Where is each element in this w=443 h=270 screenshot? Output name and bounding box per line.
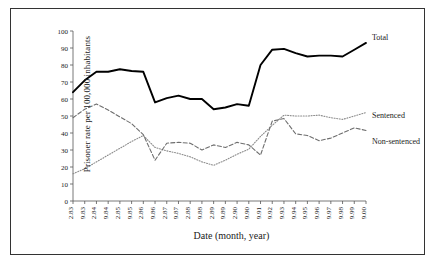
x-tick-label: 9.85 xyxy=(126,207,134,220)
x-tick-label: 2.89 xyxy=(208,207,216,220)
x-tick-label: 9.94 xyxy=(290,207,298,220)
chart-figure: 0102030405060708090100 2.839.832.849.842… xyxy=(10,8,425,255)
x-tick-label: 2.83 xyxy=(67,207,75,220)
x-tick-label: 2.88 xyxy=(184,207,192,220)
y-axis-label-holder: Prisoner rate per 100,000 inhabitants xyxy=(67,9,68,199)
legend-label-sentenced: Sentenced xyxy=(372,111,405,120)
series-line-total xyxy=(73,43,366,109)
legend-label-total: Total xyxy=(372,33,389,42)
series-line-sentenced xyxy=(73,113,366,174)
series-line-non-sentenced xyxy=(73,104,366,160)
x-tick-label: 9.92 xyxy=(266,207,274,220)
x-tick-label: 9.90 xyxy=(243,207,251,220)
x-axis: 2.839.832.849.842.859.852.869.862.879.87… xyxy=(67,201,368,219)
x-tick-label: 9.83 xyxy=(79,207,87,220)
x-tick-label: 9.93 xyxy=(278,207,286,220)
x-tick-label: 2.86 xyxy=(137,207,145,220)
x-tick-label: 9.95 xyxy=(301,207,309,220)
line-chart: 0102030405060708090100 2.839.832.849.842… xyxy=(11,9,426,256)
legend-label-non-sentenced: Non-sentenced xyxy=(372,137,420,146)
x-tick-label: 9.89 xyxy=(219,207,227,220)
x-tick-label: 2.87 xyxy=(161,207,169,220)
x-axis-title: Date (month, year) xyxy=(25,230,438,241)
x-tick-label: 9.91 xyxy=(255,207,263,220)
y-axis: 0102030405060708090100 xyxy=(58,28,74,206)
chart-plot-area: 0102030405060708090100 2.839.832.849.842… xyxy=(11,9,424,254)
x-tick-label: 9.99 xyxy=(348,207,356,220)
x-tick-label: 9.84 xyxy=(102,207,110,220)
x-tick-label: 9.00 xyxy=(360,207,368,220)
y-axis-title: Prisoner rate per 100,000 inhabitants xyxy=(82,36,92,172)
x-tick-label: 2.90 xyxy=(231,207,239,220)
x-tick-label: 9.88 xyxy=(196,207,204,220)
x-tick-label: 9.97 xyxy=(325,207,333,220)
x-tick-label: 9.96 xyxy=(313,207,321,220)
x-tick-label: 2.84 xyxy=(90,207,98,220)
data-series-group xyxy=(73,43,366,174)
x-tick-label: 2.85 xyxy=(114,207,122,220)
x-tick-label: 9.98 xyxy=(337,207,345,220)
x-tick-label: 9.87 xyxy=(172,207,180,220)
chart-legend: TotalSentencedNon-sentenced xyxy=(372,33,420,147)
x-tick-label: 9.86 xyxy=(149,207,157,220)
